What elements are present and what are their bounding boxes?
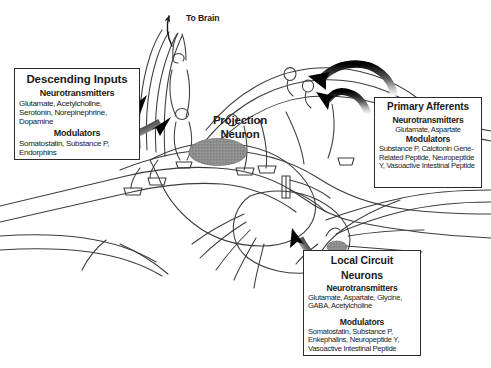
descending-inputs-modulators-body: Somatostatin, Substance P, Endorphins	[19, 139, 135, 157]
local-circuit-neurotransmitters-body: Glutamate, Aspartate, Glycine, GABA, Ace…	[308, 294, 416, 312]
projection-neuron-label-line1: Projection	[194, 114, 286, 128]
synaptic-terminal	[148, 178, 166, 185]
projection-neuron-soma	[189, 139, 247, 166]
descending-inputs-neurotransmitters-heading: Neurotransmitters	[19, 88, 135, 99]
to-brain-label: To Brain	[186, 13, 219, 23]
synaptic-terminal	[258, 166, 276, 173]
primary-afferents-title: Primary Afferents	[379, 101, 477, 113]
local-circuit-neurons-title-line2: Neurons	[308, 269, 416, 282]
primary-afferents-neurotransmitters-heading: Neurotransmitters	[379, 115, 477, 126]
descending-inputs-title: Descending Inputs	[19, 72, 135, 86]
ventral-fibers	[0, 235, 168, 276]
local-circuit-neurotransmitters-heading: Neurotransmitters	[308, 283, 416, 294]
projection-neuron-label: Projection Neuron	[194, 114, 286, 141]
local-circuit-neurons-box[interactable]: Local Circuit Neurons Neurotransmitters …	[303, 250, 421, 356]
diagram-canvas: To Brain Projection Neuron Descending In…	[0, 0, 491, 368]
primary-afferents-neurotransmitters-body: Glutamate, Aspartate	[379, 126, 477, 135]
primary-afferents-box[interactable]: Primary Afferents Neurotransmitters Glut…	[374, 97, 482, 188]
descending-inputs-modulators-heading: Modulators	[19, 128, 135, 139]
projection-neuron-label-line2: Neuron	[194, 128, 286, 142]
descending-fiber-tract	[139, 30, 182, 156]
local-circuit-neurons-title-line1: Local Circuit	[308, 254, 416, 267]
descending-inputs-box[interactable]: Descending Inputs Neurotransmitters Glut…	[14, 68, 140, 160]
primary-afferents-modulators-body: Substance P, Calcitonin Gene-Related Pep…	[379, 145, 477, 171]
synaptic-bouton	[302, 80, 313, 108]
local-circuit-modulators-body: Somatostatin, Substance P, Enkephalins, …	[308, 328, 416, 354]
descending-inputs-neurotransmitters-body: Glutamate, Acetylcholine, Serotonin, Nor…	[19, 99, 135, 127]
synaptic-terminal	[338, 158, 354, 165]
primary-afferent-arrow-inner	[316, 91, 368, 114]
to-brain-arrow	[167, 16, 172, 46]
